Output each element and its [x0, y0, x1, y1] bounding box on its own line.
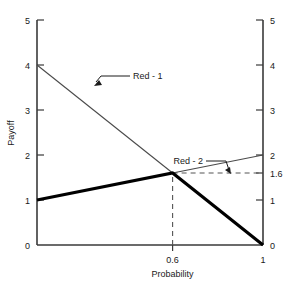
y-left-tick-label: 2 [25, 151, 30, 161]
x-tick-label-06: 0.6 [166, 255, 179, 265]
y-right-tick-label: 1 [270, 196, 275, 206]
y-left-tick-label: 3 [25, 106, 30, 116]
y-left-tick-label: 4 [25, 61, 30, 71]
annotation-arrowhead-red-1 [94, 80, 102, 86]
annotation-label-red-2: Red - 2 [173, 156, 203, 166]
y-right-tick-label: 5 [270, 16, 275, 26]
x-tick-label-1: 1 [260, 255, 265, 265]
y-right-tick-label: 2 [270, 151, 275, 161]
x-axis-tick-labels: 0.6 1 [166, 255, 265, 265]
y-left-tick-label: 0 [25, 241, 30, 251]
series-line-envelope [37, 173, 263, 245]
chart-canvas: 0 1 2 3 4 5 0 1 1.6 2 3 4 5 0.6 1 Red - … [0, 0, 292, 284]
annotation-label-red-1: Red - 1 [133, 71, 163, 81]
y-right-tick-label: 0 [270, 241, 275, 251]
y-right-tick-label: 1.6 [270, 169, 283, 179]
y-axis-left-ticks [37, 20, 44, 200]
y-left-tick-label: 5 [25, 16, 30, 26]
payoff-probability-chart: 0 1 2 3 4 5 0 1 1.6 2 3 4 5 0.6 1 Red - … [0, 0, 292, 284]
y-right-tick-label: 3 [270, 106, 275, 116]
y-axis-title: Payoff [6, 120, 16, 146]
y-right-tick-label: 4 [270, 61, 275, 71]
x-axis-title: Probability [152, 269, 195, 279]
annotation-leader-red-1 [96, 76, 130, 82]
y-left-tick-label: 1 [25, 196, 30, 206]
y-axis-right-tick-labels: 0 1 1.6 2 3 4 5 [270, 16, 283, 251]
y-axis-left-tick-labels: 0 1 2 3 4 5 [25, 16, 30, 251]
